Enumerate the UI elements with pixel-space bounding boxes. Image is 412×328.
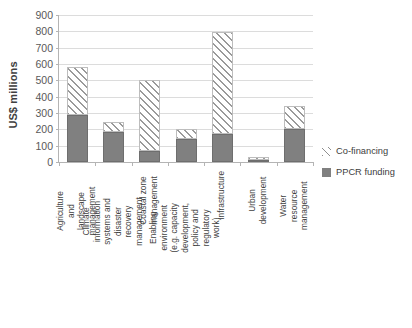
gridline xyxy=(59,31,313,32)
y-axis-title: US$ millions xyxy=(4,20,22,170)
gridline xyxy=(59,80,313,81)
legend-label-co-financing: Co-financing xyxy=(336,146,388,156)
bar-group xyxy=(139,80,160,162)
y-axis-title-text: US$ millions xyxy=(7,61,19,128)
bar-group xyxy=(103,122,124,162)
legend-label-ppcr-funding: PPCR funding xyxy=(336,167,395,177)
chart-legend: Co-financing PPCR funding xyxy=(322,146,410,188)
y-axis-tick-label: 300 xyxy=(35,107,53,119)
bar-segment-ppcr-funding xyxy=(248,160,269,162)
y-axis-tick-mark xyxy=(56,113,59,114)
y-axis-tick-label: 400 xyxy=(35,91,53,103)
y-axis-tick-labels: 0100200300400500600700800900 xyxy=(22,15,56,167)
bar-segment-ppcr-funding xyxy=(139,151,160,162)
y-axis-tick-mark xyxy=(56,97,59,98)
y-axis-tick-label: 900 xyxy=(35,9,53,21)
x-axis-category-label: Water resource management xyxy=(276,166,312,324)
x-axis-category-labels: Agriculture and landscape managementClim… xyxy=(58,166,312,326)
bar-segment-co-financing xyxy=(67,67,88,115)
y-axis-tick-label: 600 xyxy=(35,58,53,70)
y-axis-tick-label: 200 xyxy=(35,123,53,135)
y-axis-tick-mark xyxy=(56,48,59,49)
bar-group xyxy=(284,106,305,162)
plot-area xyxy=(58,15,313,163)
bar-segment-co-financing xyxy=(139,80,160,151)
bar-segment-ppcr-funding xyxy=(67,115,88,162)
y-axis-tick-mark xyxy=(56,146,59,147)
x-axis-category-label: Enabling environment (e.g. capacity deve… xyxy=(167,166,203,324)
ppcr-funding-swatch-icon xyxy=(322,168,331,177)
bar-chart: US$ millions 010020030040050060070080090… xyxy=(0,0,412,328)
y-axis-tick-label: 100 xyxy=(35,140,53,152)
x-axis-category-label-text: Infrastructure xyxy=(216,171,227,220)
y-axis-tick-label: 500 xyxy=(35,74,53,86)
bar-segment-ppcr-funding xyxy=(103,132,124,162)
gridline xyxy=(59,48,313,49)
gridline xyxy=(59,113,313,114)
bar-segment-co-financing xyxy=(176,129,197,139)
y-axis-tick-mark xyxy=(56,31,59,32)
bar-segment-co-financing xyxy=(284,106,305,130)
bar-group xyxy=(67,67,88,162)
y-axis-tick-mark xyxy=(56,15,59,16)
x-axis-tick-mark xyxy=(313,162,314,166)
y-axis-tick-label: 700 xyxy=(35,42,53,54)
bar-segment-co-financing xyxy=(103,122,124,132)
bar-group xyxy=(176,129,197,162)
bar-segment-ppcr-funding xyxy=(176,139,197,162)
x-axis-category-label: Urban development xyxy=(239,166,275,324)
legend-item-ppcr-funding: PPCR funding xyxy=(322,167,410,177)
bar-segment-ppcr-funding xyxy=(212,134,233,162)
bar-segment-co-financing xyxy=(212,32,233,134)
gridline xyxy=(59,97,313,98)
y-axis-tick-mark xyxy=(56,64,59,65)
y-axis-tick-mark xyxy=(56,80,59,81)
gridline xyxy=(59,15,313,16)
bar-segment-ppcr-funding xyxy=(284,129,305,162)
x-axis-category-label-text: Urban development xyxy=(247,176,268,224)
y-axis-tick-label: 800 xyxy=(35,25,53,37)
co-financing-swatch-icon xyxy=(322,147,331,156)
x-axis-category-label: Infrastructure xyxy=(203,166,239,324)
gridline xyxy=(59,64,313,65)
bar-group xyxy=(212,32,233,162)
x-axis-category-label: Climate information systems and disaster… xyxy=(94,166,130,324)
y-axis-tick-label: 0 xyxy=(47,156,53,168)
y-axis-tick-mark xyxy=(56,129,59,130)
x-axis-category-label-text: Water resource management xyxy=(278,182,310,230)
legend-item-co-financing: Co-financing xyxy=(322,146,410,156)
bar-group xyxy=(248,157,269,162)
